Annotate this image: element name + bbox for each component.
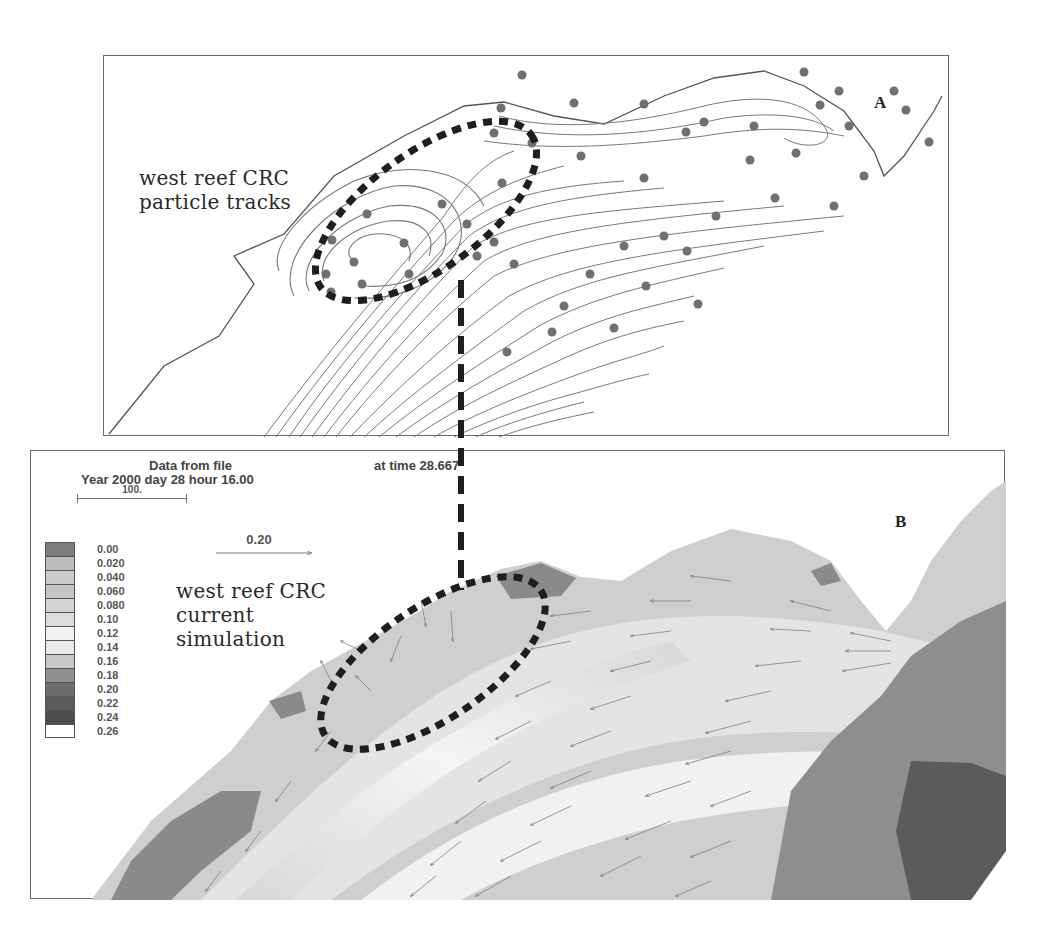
legend-swatch xyxy=(45,570,75,584)
legend-swatch xyxy=(45,696,75,710)
header-data-source: Data from file xyxy=(149,458,232,473)
legend-swatch xyxy=(45,626,75,640)
legend-item: 0.12 xyxy=(45,626,125,640)
legend-swatch xyxy=(45,682,75,696)
legend-item: 0.16 xyxy=(45,654,125,668)
legend-item: 0.040 xyxy=(45,570,125,584)
legend-swatch xyxy=(45,710,75,724)
legend-item: 0.080 xyxy=(45,598,125,612)
legend-swatch xyxy=(45,542,75,556)
legend-item: 0.020 xyxy=(45,556,125,570)
current-speed-contour-plot xyxy=(31,451,1006,900)
legend-item: 0.00 xyxy=(45,542,125,556)
speed-color-legend: 0.00 0.020 0.040 0.060 0.080 0.10 0.12 0… xyxy=(45,542,125,738)
annotation-particle-tracks: west reef CRC particle tracks xyxy=(139,166,291,214)
legend-item: 0.060 xyxy=(45,584,125,598)
coastline xyxy=(109,71,942,434)
legend-swatch xyxy=(45,654,75,668)
legend-item: 0.26 xyxy=(45,724,125,738)
scale-bar-label: 100. xyxy=(77,484,187,495)
panel-label-a: A xyxy=(874,93,886,113)
vector-reference: 0.20 xyxy=(216,532,316,547)
annotation-current-simulation: west reef CRC current simulation xyxy=(176,579,326,651)
legend-item: 0.10 xyxy=(45,612,125,626)
legend-item: 0.18 xyxy=(45,668,125,682)
particle-tracks xyxy=(264,99,844,437)
legend-swatch xyxy=(45,598,75,612)
legend-item: 0.20 xyxy=(45,682,125,696)
legend-item: 0.22 xyxy=(45,696,125,710)
vector-reference-label: 0.20 xyxy=(202,532,316,547)
legend-item: 0.14 xyxy=(45,640,125,654)
eddy-tracks xyxy=(277,170,484,299)
legend-swatch xyxy=(45,640,75,654)
legend-swatch xyxy=(45,668,75,682)
panel-label-b: B xyxy=(895,512,906,532)
panel-b-current-simulation: Data from file Year 2000 day 28 hour 16.… xyxy=(30,450,1005,899)
legend-swatch xyxy=(45,612,75,626)
header-model-time: at time 28.667 xyxy=(374,458,459,473)
panel-a-particle-tracks: west reef CRC particle tracks A xyxy=(103,55,949,436)
particle-track-plot xyxy=(104,56,950,437)
legend-swatch xyxy=(45,556,75,570)
legend-swatch xyxy=(45,724,75,738)
legend-swatch xyxy=(45,584,75,598)
distance-scale-bar: 100. xyxy=(77,484,187,507)
legend-item: 0.24 xyxy=(45,710,125,724)
